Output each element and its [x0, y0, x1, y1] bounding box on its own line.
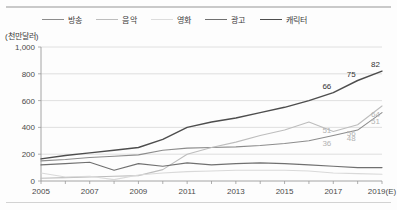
y-axis-tick-labels: 02004006008001,000 — [15, 43, 36, 186]
figure-bottom-rule — [6, 202, 391, 203]
data-label-캐릭터-2018: 75 — [347, 70, 356, 79]
y-tick-label-1000: 1,000 — [15, 43, 36, 52]
series-line-방송 — [41, 113, 382, 161]
x-tick-label-2017: 2017 — [324, 187, 342, 196]
y-tick-label-200: 200 — [22, 150, 36, 159]
data-label-방송-2017: 36 — [322, 139, 331, 148]
data-label-캐릭터-2017: 66 — [322, 82, 331, 91]
x-tick-label-2013: 2013 — [227, 187, 245, 196]
y-tick-label-800: 800 — [22, 70, 36, 79]
line-chart-svg: 02004006008001,000 200520072009201120132… — [0, 0, 397, 210]
chart-plot-area: 02004006008001,000 200520072009201120132… — [0, 0, 397, 210]
x-tick-label-2019: 2019(E) — [368, 187, 397, 196]
y-tick-label-600: 600 — [22, 97, 36, 106]
data-label-캐릭터-2019: 82 — [371, 60, 380, 69]
axis-lines — [41, 47, 382, 181]
x-tick-label-2011: 2011 — [179, 187, 197, 196]
data-label-방송-2018: 48 — [347, 134, 356, 143]
series-line-광고 — [41, 162, 382, 170]
data-point-labels: 827566645651514836 — [322, 60, 380, 148]
x-axis-tick-labels: 20052007200920112013201520172019(E) — [32, 187, 396, 196]
y-tick-label-0: 0 — [31, 177, 36, 186]
figure-frame: 방송 음악 영화 광고 캐릭터 (천만달러) 02004006008001,00… — [0, 0, 397, 210]
series-line-영화 — [41, 170, 382, 179]
data-label-음악-2017: 51 — [322, 126, 331, 135]
x-tick-label-2009: 2009 — [130, 187, 148, 196]
y-tick-label-400: 400 — [22, 123, 36, 132]
data-label-방송-2019: 51 — [371, 117, 380, 126]
x-tick-label-2007: 2007 — [81, 187, 99, 196]
x-tick-label-2005: 2005 — [32, 187, 50, 196]
x-tick-label-2015: 2015 — [276, 187, 294, 196]
gridlines — [41, 47, 382, 154]
